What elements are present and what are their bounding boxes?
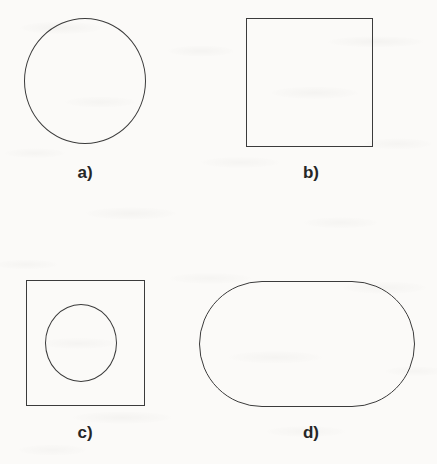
inner-circle-shape	[45, 304, 117, 382]
stadium-shape	[199, 281, 415, 407]
panel-label-a: a)	[77, 164, 92, 181]
circle-shape	[24, 18, 146, 144]
panel-label-d: d)	[303, 424, 319, 441]
panel-label-b: b)	[303, 164, 319, 181]
square-shape	[246, 18, 373, 147]
panel-label-c: c)	[77, 424, 92, 441]
figure-sheet: a) b) c) d)	[0, 0, 437, 464]
